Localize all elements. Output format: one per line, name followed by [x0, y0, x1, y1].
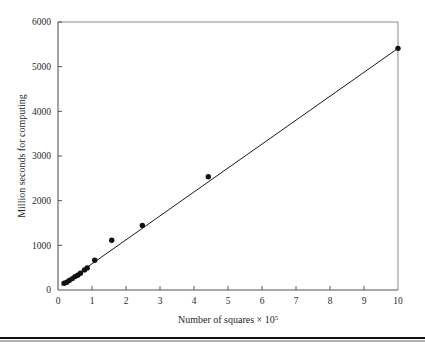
y-tick-label: 5000 [32, 62, 51, 72]
y-tick-label: 1000 [32, 241, 51, 251]
data-point [206, 174, 211, 179]
x-axis-title-exponent: 5 [275, 314, 278, 321]
y-axis-title: Million seconds for computing [16, 94, 27, 218]
y-tick-label: 3000 [32, 151, 51, 161]
data-point [109, 237, 114, 242]
x-axis-title-text: Number of squares × 10 [178, 314, 275, 325]
y-tick-label: 6000 [32, 17, 51, 27]
x-axis-title: Number of squares × 105 [178, 314, 278, 326]
x-tick-label: 9 [362, 296, 367, 306]
x-tick-label: 6 [260, 296, 265, 306]
x-tick-label: 5 [226, 296, 231, 306]
x-tick-label: 7 [294, 296, 299, 306]
x-tick-label: 8 [328, 296, 333, 306]
x-tick-label: 10 [393, 296, 403, 306]
x-tick-label: 0 [56, 296, 61, 306]
data-point [92, 258, 97, 263]
y-tick-label: 2000 [32, 196, 51, 206]
figure-container: 0100020003000400050006000 012345678910 N… [0, 0, 425, 348]
x-tick-label: 1 [90, 296, 95, 306]
x-tick-label: 4 [192, 296, 197, 306]
data-point [395, 46, 400, 51]
data-point [85, 265, 90, 270]
y-tick-label: 4000 [32, 107, 51, 117]
data-point [140, 223, 145, 228]
x-tick-label: 3 [158, 296, 163, 306]
scatter-plot: 0100020003000400050006000 012345678910 N… [0, 0, 425, 348]
y-tick-label: 0 [46, 285, 51, 295]
x-tick-label: 2 [124, 296, 129, 306]
